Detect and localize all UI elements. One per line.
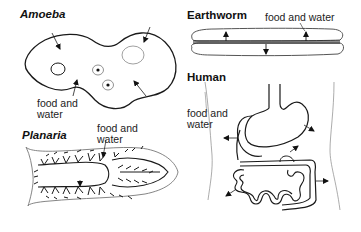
human-large-intestine xyxy=(240,160,316,210)
human-annotation: food and water xyxy=(187,108,228,130)
planaria-drawing xyxy=(26,140,178,206)
earthworm-annotation-line-1: food and water xyxy=(265,12,334,23)
planaria-title: Planaria xyxy=(22,129,67,141)
human-body-outline-right xyxy=(330,82,340,210)
amoeba-title: Amoeba xyxy=(20,8,65,20)
digestion-comparison-diagram: Amoeba Earthworm Planaria Human food and… xyxy=(0,0,361,232)
amoeba-vacuole-large xyxy=(122,46,144,64)
planaria-body-outline xyxy=(26,147,178,206)
human-title: Human xyxy=(187,71,226,83)
earthworm-drawing xyxy=(191,23,343,56)
human-small-intestine xyxy=(234,170,304,204)
human-annotation-line-2: water xyxy=(187,119,228,130)
amoeba-annotation-line-2: water xyxy=(37,109,78,120)
amoeba-annotation: food and water xyxy=(37,98,78,120)
human-body-outline-left xyxy=(205,82,212,200)
earthworm-lower-body xyxy=(191,43,343,56)
planaria-annotation-line-2: water xyxy=(97,134,138,145)
human-stomach xyxy=(245,84,308,147)
earthworm-annotation: food and water xyxy=(265,12,334,23)
amoeba-vacuole-small xyxy=(51,63,65,75)
earthworm-upper-body xyxy=(192,28,343,41)
human-drawing xyxy=(205,82,340,210)
planaria-annotation: food and water xyxy=(97,123,138,145)
planaria-gut-main xyxy=(38,162,109,187)
earthworm-title: Earthworm xyxy=(187,9,247,21)
